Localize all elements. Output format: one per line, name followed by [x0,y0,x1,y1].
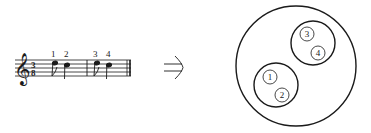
circle-label-2: 2 [280,90,285,100]
circle-label-3: 3 [305,29,310,39]
note-2 [64,62,70,79]
time-signature-bottom: 8 [31,68,36,78]
group-3-4 [291,21,335,65]
implies-arrow-icon [164,56,183,79]
outer-group-circle [236,6,356,126]
group-1-2 [254,63,298,107]
note-label-2: 2 [64,49,69,59]
circle-label-4: 4 [316,48,321,58]
circle-label-1: 1 [268,72,273,82]
note-label-3: 3 [93,49,98,59]
note-label-1: 1 [51,49,56,59]
treble-clef-icon: 𝄞 [14,53,31,86]
note-4 [106,62,112,79]
diagram-canvas: 𝄞 3 8 [0,0,371,133]
grouping-diagram: 𝄞 3 8 [0,0,371,133]
grouping-structure [236,6,356,126]
note-label-4: 4 [106,49,111,59]
music-score: 𝄞 3 8 [14,49,131,86]
